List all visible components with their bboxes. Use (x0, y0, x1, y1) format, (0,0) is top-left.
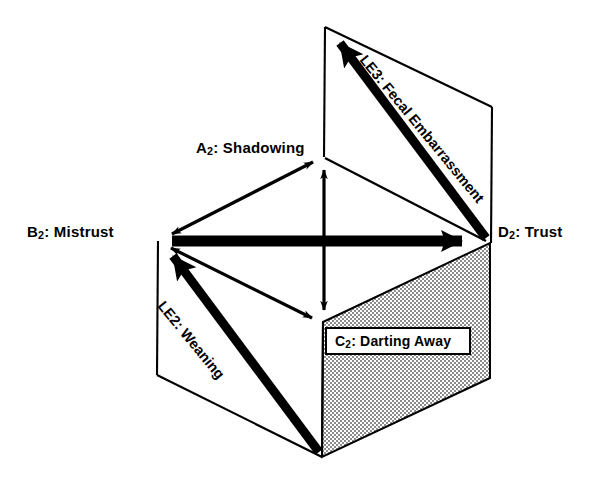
vertex-label-d2-prefix: D (498, 223, 509, 240)
vertex-label-a2-subscript: 2 (207, 145, 213, 157)
arrow-a2-b2 (172, 162, 313, 234)
vertex-label-c2-subscript: 2 (345, 339, 351, 350)
edge-bottom-to-c2 (322, 322, 323, 457)
vertex-label-c2-text: : Darting Away (351, 333, 451, 349)
vertex-label-b2-subscript: 2 (38, 229, 44, 241)
edge-top-to-a2 (324, 27, 325, 157)
vertex-label-b2-text: : Mistrust (44, 223, 114, 240)
diagram-canvas (0, 0, 603, 483)
arrow-le3-fecal-embarrassment (340, 43, 486, 238)
cube-diagram-figure: A2: Shadowing B2: Mistrust D2: Trust C2:… (0, 0, 603, 483)
edge-top-to-topright (325, 27, 492, 107)
vertex-label-c2-box: C2: Darting Away (325, 327, 471, 355)
vertex-label-c2-prefix: C (335, 333, 345, 349)
vertex-label-d2-text: : Trust (515, 223, 562, 240)
vertex-label-b2-prefix: B (27, 223, 38, 240)
vertex-label-a2: A2: Shadowing (196, 139, 305, 156)
vertex-label-d2: D2: Trust (498, 223, 563, 240)
vertex-label-d2-subscript: 2 (509, 229, 515, 241)
vertex-label-b2: B2: Mistrust (27, 223, 114, 240)
vertex-label-a2-prefix: A (196, 139, 207, 156)
vertex-label-a2-text: : Shadowing (213, 139, 304, 156)
vertex-label-c2: C2: Darting Away (335, 333, 451, 349)
edge-topright-to-d2 (491, 107, 492, 243)
